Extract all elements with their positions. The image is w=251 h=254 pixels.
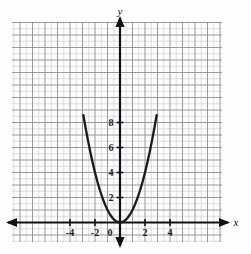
graph-figure: -4-224 2468 0 x y — [0, 0, 251, 254]
coordinate-plane-svg: -4-224 2468 0 x y — [0, 0, 251, 254]
y-axis-label: y — [117, 5, 123, 17]
y-tick-label: 2 — [109, 192, 114, 203]
figure-background — [0, 0, 251, 254]
x-tick-label: 4 — [168, 227, 173, 238]
x-axis-label: x — [233, 216, 239, 228]
x-tick-label: -4 — [66, 227, 74, 238]
x-tick-label: 2 — [143, 227, 148, 238]
origin-label: 0 — [108, 227, 113, 238]
y-tick-label: 6 — [109, 142, 114, 153]
y-tick-label: 4 — [109, 167, 114, 178]
y-tick-label: 8 — [109, 117, 114, 128]
x-tick-label: -2 — [91, 227, 99, 238]
